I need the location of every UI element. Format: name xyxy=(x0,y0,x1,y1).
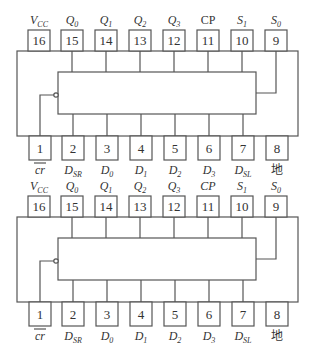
pin-13: 13Q2 xyxy=(129,13,151,72)
pin-number: 6 xyxy=(206,307,213,322)
pin-number: 11 xyxy=(202,33,215,48)
pin-3: 3D0 xyxy=(96,114,118,179)
pin-number: 6 xyxy=(206,141,213,156)
pin-number: 14 xyxy=(100,33,114,48)
pin-label: D2 xyxy=(168,163,182,179)
pin-number: 10 xyxy=(236,199,249,214)
pin-5: 5D2 xyxy=(164,280,186,345)
pin-number: 13 xyxy=(134,199,147,214)
pin-number: 16 xyxy=(33,199,47,214)
logic-block xyxy=(58,238,256,280)
pin-label: S0 xyxy=(271,179,281,195)
pin-7: 7DSL xyxy=(232,114,254,179)
pin-label: VCC xyxy=(30,13,49,29)
pin-label: DSR xyxy=(63,329,82,345)
pin-number: 5 xyxy=(172,307,179,322)
pin-8: 8地 xyxy=(266,136,288,177)
pin-label: Q3 xyxy=(168,179,181,195)
chip-diagram-2: 16VCC15Q014Q113Q212Q311CP10S19S01cr2DSR3… xyxy=(17,179,298,345)
pin-label: D0 xyxy=(100,329,114,345)
pin-8: 8地 xyxy=(266,302,288,343)
pin-label: Q0 xyxy=(66,179,79,195)
pin-label: cr xyxy=(35,329,45,343)
pin-label: D3 xyxy=(202,163,216,179)
pin-number: 1 xyxy=(37,307,44,322)
pin-number: 12 xyxy=(168,33,181,48)
pin-label: S1 xyxy=(237,179,247,195)
pin-4: 4D1 xyxy=(130,114,152,179)
pin-label: D2 xyxy=(168,329,182,345)
pin-2: 2DSR xyxy=(62,114,84,179)
pin-number: 11 xyxy=(202,199,215,214)
pin-14: 14Q1 xyxy=(95,13,117,72)
pin-label: DSR xyxy=(63,163,82,179)
pin-number: 13 xyxy=(134,33,147,48)
pin-label: DSL xyxy=(233,163,252,179)
pin-15: 15Q0 xyxy=(61,179,83,238)
pin-12: 12Q3 xyxy=(163,13,185,72)
pin-12: 12Q3 xyxy=(163,179,185,238)
pin-number: 2 xyxy=(70,141,77,156)
pin-label: Q3 xyxy=(168,13,181,29)
pin-14: 14Q1 xyxy=(95,179,117,238)
pin-6: 6D3 xyxy=(198,114,220,179)
pin-5: 5D2 xyxy=(164,114,186,179)
pin-9: 9S0 xyxy=(265,13,287,51)
pin-11: 11CP xyxy=(197,13,219,72)
pin-1: 1cr xyxy=(29,136,51,177)
pin-label: D0 xyxy=(100,163,114,179)
pin-label: S0 xyxy=(271,13,281,29)
pin-number: 4 xyxy=(138,141,145,156)
pin-label: Q2 xyxy=(134,179,147,195)
pin-number: 2 xyxy=(70,307,77,322)
pin-number: 9 xyxy=(273,199,280,214)
pin-16: 16VCC xyxy=(28,179,50,217)
pin-15: 15Q0 xyxy=(61,13,83,72)
pin-label: VCC xyxy=(30,179,49,195)
pin-number: 14 xyxy=(100,199,114,214)
pin-number: 3 xyxy=(104,307,111,322)
clear-trace xyxy=(40,261,54,302)
s0-trace xyxy=(256,217,276,259)
pin-number: 1 xyxy=(37,141,44,156)
pin-label: cr xyxy=(35,163,45,177)
pin-2: 2DSR xyxy=(62,280,84,345)
pin-11: 11CP xyxy=(197,179,219,238)
pin-label: S1 xyxy=(237,13,247,29)
pin-number: 5 xyxy=(172,141,179,156)
pin-number: 16 xyxy=(33,33,47,48)
pin-4: 4D1 xyxy=(130,280,152,345)
pin-6: 6D3 xyxy=(198,280,220,345)
pin-number: 4 xyxy=(138,307,145,322)
s0-trace xyxy=(256,51,276,93)
pin-number: 7 xyxy=(240,141,247,156)
pin-label: D1 xyxy=(134,163,148,179)
pin-number: 8 xyxy=(274,141,281,156)
inversion-bubble-icon xyxy=(54,259,58,263)
pin-10: 10S1 xyxy=(231,13,253,72)
pin-label: Q1 xyxy=(100,13,113,29)
pin-number: 7 xyxy=(240,307,247,322)
logic-block xyxy=(58,72,256,114)
pin-label: CP xyxy=(200,179,216,193)
pin-number: 15 xyxy=(66,199,79,214)
chip-diagram-1: 16VCC15Q014Q113Q212Q311CP10S19S01cr2DSR3… xyxy=(17,13,298,179)
pin-1: 1cr xyxy=(29,302,51,343)
pin-label: 地 xyxy=(271,329,283,343)
pin-label: DSL xyxy=(233,329,252,345)
pin-10: 10S1 xyxy=(231,179,253,238)
inversion-bubble-icon xyxy=(54,93,58,97)
pin-label: D3 xyxy=(202,329,216,345)
pin-number: 8 xyxy=(274,307,281,322)
pin-16: 16VCC xyxy=(28,13,50,51)
pin-7: 7DSL xyxy=(232,280,254,345)
pin-number: 12 xyxy=(168,199,181,214)
pin-number: 3 xyxy=(104,141,111,156)
clear-trace xyxy=(40,95,54,136)
pin-label: Q1 xyxy=(100,179,113,195)
pin-number: 9 xyxy=(273,33,280,48)
pin-9: 9S0 xyxy=(265,179,287,217)
pin-number: 10 xyxy=(236,33,249,48)
pin-number: 15 xyxy=(66,33,79,48)
pin-label: Q2 xyxy=(134,13,147,29)
